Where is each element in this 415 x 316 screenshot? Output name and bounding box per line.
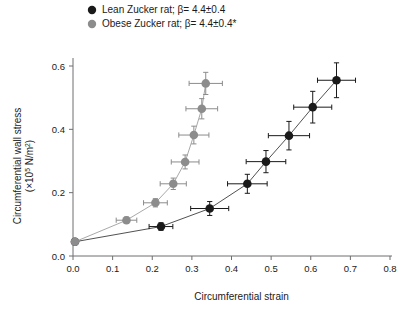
chart-figure: 0.00.10.20.30.40.50.60.70.80.00.20.40.6C… xyxy=(0,0,415,316)
x-axis-tick-label: 0.0 xyxy=(66,263,79,274)
x-axis-tick-label: 0.3 xyxy=(185,263,198,274)
legend-marker xyxy=(88,20,96,28)
series-obese xyxy=(71,72,223,246)
data-point-lean xyxy=(285,131,294,140)
legend-label: Obese Zucker rat; β= 4.4±0.4* xyxy=(102,18,236,29)
y-axis-tick-label: 0.2 xyxy=(52,187,65,198)
data-point-obese xyxy=(71,237,80,246)
data-point-lean xyxy=(332,76,341,85)
y-axis-title-units: (×105 N/m2) xyxy=(24,140,36,192)
data-point-lean xyxy=(243,180,252,189)
data-point-lean xyxy=(262,157,271,166)
x-axis-title: Circumferential strain xyxy=(194,291,288,302)
x-axis-tick-label: 0.2 xyxy=(146,263,159,274)
y-axis-title: Circumferential wall stress xyxy=(12,108,23,225)
y-axis-title-line1: Circumferential wall stress xyxy=(12,108,23,225)
y-axis-title-line2: (×105 N/m2) xyxy=(24,140,36,192)
legend-marker xyxy=(88,6,96,14)
legend-label: Lean Zucker rat; β= 4.4±0.4 xyxy=(102,4,226,15)
data-point-lean xyxy=(308,103,317,112)
data-point-obese xyxy=(169,180,178,189)
x-axis-tick-label: 0.1 xyxy=(106,263,119,274)
series-lean xyxy=(71,63,356,246)
data-point-obese xyxy=(190,131,199,140)
data-point-obese xyxy=(122,216,131,225)
y-axis-tick-label: 0.4 xyxy=(52,124,65,135)
data-point-obese xyxy=(181,158,190,167)
y-axis-tick-label: 0.0 xyxy=(52,251,65,262)
x-axis-tick-label: 0.6 xyxy=(304,263,317,274)
wall-stress-vs-strain-chart: 0.00.10.20.30.40.50.60.70.80.00.20.40.6C… xyxy=(0,0,415,316)
data-point-obese xyxy=(151,199,160,208)
data-point-obese xyxy=(197,104,206,113)
y-axis-tick-label: 0.6 xyxy=(52,61,65,72)
x-axis-tick-label: 0.5 xyxy=(265,263,278,274)
x-axis-tick-label: 0.7 xyxy=(344,263,357,274)
x-axis-tick-label: 0.4 xyxy=(225,263,238,274)
series-line-lean xyxy=(75,80,337,242)
data-point-lean xyxy=(157,222,166,231)
data-point-obese xyxy=(201,79,210,88)
data-point-lean xyxy=(205,204,214,213)
x-axis-tick-label: 0.8 xyxy=(383,263,396,274)
chart-legend: Lean Zucker rat; β= 4.4±0.4Obese Zucker … xyxy=(88,4,237,29)
